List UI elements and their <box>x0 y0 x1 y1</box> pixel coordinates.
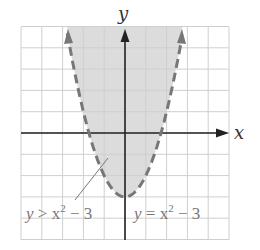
equation-label: y = x2 − 3 <box>132 202 200 223</box>
inequality-graph: x y y > x2 − 3 y = x2 − 3 <box>0 0 260 250</box>
x-axis-label: x <box>234 122 244 143</box>
annotation-leader-line <box>75 158 108 200</box>
inequality-label: y > x2 − 3 <box>24 202 92 223</box>
y-axis-label: y <box>117 3 129 24</box>
x-axis-arrow-icon <box>216 129 229 138</box>
